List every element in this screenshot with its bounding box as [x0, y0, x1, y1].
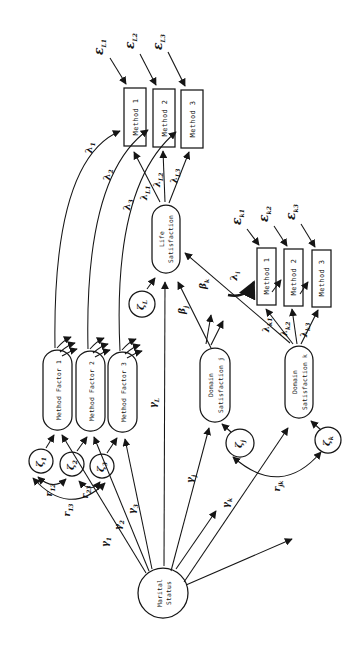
marital-status-line2: Status: [165, 581, 172, 605]
box-life-method-1-label: Method 1: [132, 99, 140, 136]
arrow-epsilon-L1: [110, 58, 126, 84]
label-epsilon-L3: εL3: [150, 34, 166, 50]
label-epsilon-k1: εk1: [229, 209, 245, 225]
subscript: i: [234, 271, 241, 274]
arrow-epsilon-k3: [301, 224, 315, 247]
box-k-method-2-label: Method 2: [290, 259, 298, 296]
subscript: L1: [144, 186, 151, 195]
subscript: L2: [157, 173, 164, 182]
label-epsilon-k3: εk3: [283, 204, 299, 220]
symbol: λ: [101, 174, 112, 182]
label-epsilon-k2: εk2: [256, 206, 272, 222]
symbol: β: [198, 283, 208, 290]
figure-canvas: εL1 εL2 εL3 Method 1 Method 2 Method 3 λ…: [0, 0, 364, 655]
label-beta-j: βj: [177, 305, 190, 315]
subscript: jk: [277, 480, 285, 487]
subscript: j: [182, 305, 190, 309]
label-lambda-L2: λL2: [152, 173, 164, 189]
label-lambda-2: λ2: [101, 169, 114, 181]
arrow-zeta-L: [147, 278, 155, 289]
arrow-other-domain-a: [176, 511, 216, 569]
subscript: 1: [105, 537, 112, 541]
arrow-zeta-2: [77, 437, 87, 451]
label-epsilon-L2: εL2: [122, 33, 138, 49]
stub-dsj-a: [206, 315, 211, 344]
symbol: λ: [228, 274, 239, 282]
arrow-epsilon-k2: [274, 226, 287, 246]
subscript: k1: [266, 318, 273, 326]
subscript: L3: [159, 34, 166, 43]
arrow-zeta-1: [46, 435, 54, 448]
stub-mf2-a: [90, 338, 104, 349]
life-satisfaction-line1: Life: [158, 231, 165, 247]
stub-mf3-a: [122, 339, 136, 350]
subscript: k2: [265, 206, 272, 214]
arrow-other-domain-b: [186, 539, 292, 585]
label-lambda-1: λ1: [83, 142, 96, 154]
symbol: λ: [152, 181, 162, 188]
domain-satisfaction-j-line2: Satisfaction j: [217, 357, 225, 413]
stub-mf1-a: [57, 337, 71, 348]
subscript: L: [153, 398, 160, 403]
subscript: k: [327, 436, 334, 440]
symbol: λ: [83, 147, 94, 155]
symbol: λ: [121, 204, 132, 212]
box-life-method-3-label: Method 3: [189, 101, 197, 138]
subscript: 2: [107, 169, 114, 174]
label-gamma-k: γk: [221, 498, 233, 508]
arrow-zeta-k: [311, 421, 321, 430]
subscript: 1: [40, 457, 47, 461]
label-lambda-k3: λk3: [299, 323, 311, 339]
symbol: λ: [139, 194, 149, 201]
symbol: β: [177, 308, 187, 315]
label-r13: r13: [62, 503, 74, 516]
path-gamma-3: [125, 439, 152, 569]
path-gamma-2: [94, 437, 149, 571]
label-lambda-k2: λk2: [279, 322, 291, 338]
subscript: k: [226, 498, 233, 502]
node-domain-satisfaction-k: [285, 346, 313, 418]
label-lambda-i: λi: [228, 271, 241, 282]
subscript: 3: [132, 504, 139, 508]
subscript: L2: [131, 33, 138, 42]
arrow-zeta-3: [107, 438, 117, 453]
subscript: 12: [49, 483, 56, 491]
node-life-satisfaction: [152, 205, 180, 273]
life-satisfaction-line2: Satisfaction: [167, 215, 174, 263]
subscript: k3: [292, 204, 299, 212]
curve-r12: [38, 477, 66, 485]
marital-status-line1: Marital: [156, 579, 163, 607]
subscript: L1: [100, 39, 107, 48]
node-domain-satisfaction-j: [200, 348, 230, 422]
method-factor-2-label: Method Factor 2: [88, 361, 95, 421]
domain-satisfaction-k-line1: Domain: [291, 370, 298, 394]
label-lambda-L3: λL3: [169, 169, 181, 185]
symbol: λ: [299, 331, 309, 338]
label-gamma-3: γ3: [127, 504, 139, 514]
label-epsilon-L1: εL1: [91, 39, 107, 55]
label-r23: r23: [80, 485, 92, 498]
subscript: 13: [67, 503, 74, 511]
domain-satisfaction-k-line2: Satisfaction k: [301, 354, 308, 410]
box-k-method-1-label: Method 1: [263, 258, 271, 295]
path-gamma-L: [164, 282, 165, 566]
box-k-method-3-label: Method 3: [318, 260, 326, 297]
subscript: L3: [174, 169, 181, 178]
subscript: 1: [89, 142, 96, 146]
symbol: λ: [261, 326, 271, 333]
arrow-epsilon-L3: [168, 52, 185, 86]
subscript: k2: [284, 322, 291, 330]
subscript: 23: [85, 485, 92, 494]
box-life-method-2-label: Method 2: [161, 100, 169, 137]
method-factor-3-label: Method Factor 3: [120, 362, 127, 422]
label-gamma-L: γL: [148, 398, 160, 408]
label-beta-k: βk: [198, 279, 210, 290]
subscript: 2: [71, 460, 78, 465]
stub-dsj-b: [211, 321, 223, 345]
domain-satisfaction-j-line1: Domain: [207, 373, 214, 397]
method-factor-1-label: Method Factor 1: [55, 360, 62, 420]
label-rjk: rjk: [272, 480, 285, 491]
label-lambda-3: λ3: [121, 199, 134, 211]
arrow-zeta-j: [222, 424, 231, 432]
arrow-epsilon-k1: [247, 229, 259, 245]
